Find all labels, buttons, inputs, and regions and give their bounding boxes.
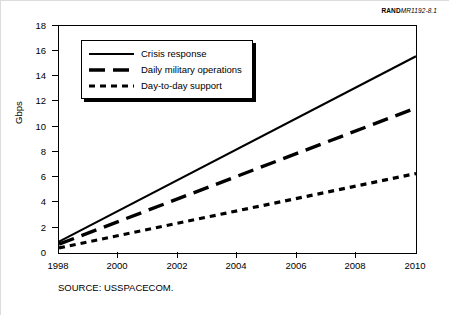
legend-label: Crisis response (141, 49, 206, 59)
rand-figure-id: RANDMR1192-8.1 (382, 8, 437, 15)
source-note: SOURCE: USSPACECOM. (58, 283, 173, 293)
x-tick-label: 2006 (276, 261, 316, 271)
y-tick-label: 4 (16, 197, 46, 207)
legend-item-day-to-day-support: Day-to-day support (82, 78, 252, 94)
legend-label: Day-to-day support (141, 81, 222, 91)
y-tick-label: 10 (16, 122, 46, 132)
y-tick-label: 14 (16, 71, 46, 81)
y-tick-label: 18 (16, 21, 46, 31)
rand-brand-label: RAND (382, 7, 401, 14)
y-tick-label: 0 (16, 248, 46, 258)
figure-container: RANDMR1192-8.1 Gbps 18 16 14 12 10 8 6 4… (0, 0, 449, 315)
x-tick-label: 2000 (97, 261, 137, 271)
y-tick-label: 8 (16, 147, 46, 157)
y-tick-label: 12 (16, 96, 46, 106)
x-tick-label: 2004 (216, 261, 256, 271)
x-tick-label: 2002 (157, 261, 197, 271)
dashed-line-icon (89, 65, 134, 75)
x-tick-label: 2010 (395, 261, 435, 271)
x-tick-label: 2008 (335, 261, 375, 271)
legend: Crisis response Daily military operation… (81, 40, 253, 99)
solid-line-icon (89, 49, 134, 59)
rand-figure-number: MR1192-8.1 (401, 7, 437, 14)
y-tick-label: 6 (16, 172, 46, 182)
y-tick-label: 2 (16, 223, 46, 233)
legend-label: Daily military operations (141, 65, 242, 75)
y-tick-label: 16 (16, 46, 46, 56)
series-line-daily-military-operations (59, 108, 416, 244)
legend-item-daily-military-operations: Daily military operations (82, 62, 252, 78)
x-tick-label: 1998 (38, 261, 78, 271)
legend-item-crisis-response: Crisis response (82, 46, 252, 62)
dotted-line-icon (89, 81, 134, 91)
series-line-day-to-day-support (59, 174, 416, 248)
